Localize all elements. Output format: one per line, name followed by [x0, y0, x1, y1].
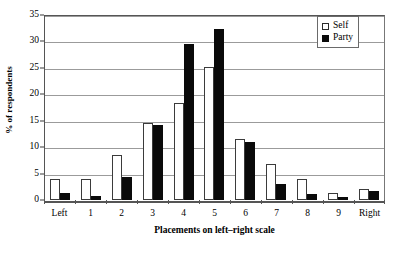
x-tick-mark [44, 200, 45, 204]
bar-group [168, 16, 199, 200]
legend-entry-self: Self [322, 20, 353, 32]
bar-party [60, 193, 70, 200]
x-tick-mark [75, 200, 76, 204]
y-axis-title: % of respondents [0, 0, 18, 200]
bar-party [214, 29, 224, 200]
legend: Self Party [317, 16, 359, 48]
x-tick-label: 7 [261, 205, 292, 221]
x-tick-mark [137, 200, 138, 204]
x-tick-mark [230, 200, 231, 204]
bar-self [359, 189, 369, 200]
y-tick-label: 0 [17, 195, 39, 205]
bar-group [76, 16, 107, 200]
bar-self [204, 67, 214, 200]
y-axis-ticks: 05101520253035 [18, 0, 44, 205]
legend-label-party: Party [333, 33, 353, 43]
x-tick-label: 4 [168, 205, 199, 221]
bar-group [107, 16, 138, 200]
x-tick-label: 6 [230, 205, 261, 221]
x-tick-label: 5 [199, 205, 230, 221]
x-tick-label: Right [354, 205, 385, 221]
bar-self [50, 179, 60, 200]
y-tick-label: 15 [17, 116, 39, 126]
y-tick-label: 5 [17, 169, 39, 179]
y-tick-label: 30 [17, 37, 39, 47]
bar-chart-figure: % of respondents 05101520253035 Left1234… [0, 0, 393, 265]
x-tick-mark [199, 200, 200, 204]
bar-group [137, 16, 168, 200]
bar-group [199, 16, 230, 200]
x-tick-mark [261, 200, 262, 204]
bar-self [266, 164, 276, 200]
y-tick-label: 10 [17, 142, 39, 152]
bar-party [245, 142, 255, 200]
x-tick-mark [106, 200, 107, 204]
bar-self [328, 193, 338, 200]
bar-party [153, 125, 163, 200]
bar-self [112, 155, 122, 200]
legend-entry-party: Party [322, 32, 353, 44]
x-tick-mark [354, 200, 355, 204]
bar-party [276, 184, 286, 200]
bar-self [143, 123, 153, 200]
x-tick-label: 8 [292, 205, 323, 221]
y-tick-label: 35 [17, 10, 39, 20]
x-tick-mark [384, 200, 385, 204]
bar-self [174, 103, 184, 200]
y-tick-label: 25 [17, 63, 39, 73]
bar-self [297, 179, 307, 200]
x-tick-label: 1 [75, 205, 106, 221]
x-tick-mark [292, 200, 293, 204]
x-tick-label: 3 [137, 205, 168, 221]
y-axis-title-text: % of respondents [4, 66, 14, 133]
x-axis-tick-labels: Left123456789Right [44, 205, 385, 221]
bar-party [184, 44, 194, 200]
bar-group [261, 16, 292, 200]
x-tick-label: Left [44, 205, 75, 221]
bar-self [81, 179, 91, 200]
x-tick-mark [168, 200, 169, 204]
x-tick-mark [323, 200, 324, 204]
x-tick-label: 9 [323, 205, 354, 221]
bar-party [122, 177, 132, 200]
legend-swatch-self-icon [322, 23, 329, 30]
bar-group [230, 16, 261, 200]
bar-self [235, 139, 245, 200]
legend-label-self: Self [333, 21, 348, 31]
x-axis-title: Placements on left–right scale [44, 225, 385, 235]
x-tick-label: 2 [106, 205, 137, 221]
y-tick-label: 20 [17, 90, 39, 100]
bar-group [45, 16, 76, 200]
bar-party [369, 191, 379, 201]
legend-swatch-party-icon [322, 35, 329, 42]
